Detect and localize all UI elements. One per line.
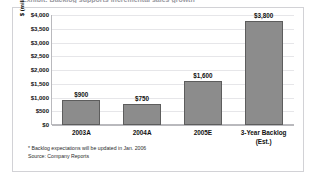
clipped-title-sliver: Exhibit: Backlog supports incremental sa… [22,0,232,3]
y-axis-tick-label: $1,000 [15,95,49,101]
bar-value-label: $3,800 [254,12,273,19]
y-axis-tick-label: $3,000 [15,40,49,46]
x-axis-label: 2004A [112,129,173,138]
footnotes: * Backlog expectations will be updated i… [28,145,278,160]
y-axis-tick-label: $1,500 [15,81,49,87]
y-axis-tick-labels: $0$500$1,000$1,500$2,000$2,500$3,000$3,5… [13,15,49,125]
x-axis-label: 3-Year Backlog (Est.) [233,129,294,146]
bar-slot: $900 [51,15,112,125]
gridline [52,125,294,126]
bar-slot: $3,800 [233,15,294,125]
y-axis-tick-label: $0 [15,122,49,128]
bar-value-label: $900 [74,91,88,98]
chart-page: Exhibit: Backlog supports incremental sa… [0,0,316,184]
bar[interactable] [184,81,222,125]
bar-value-label: $750 [135,95,149,102]
footnote-line: * Backlog expectations will be updated i… [28,145,278,153]
bar-slot: $1,600 [173,15,234,125]
bar[interactable] [245,21,283,126]
bar[interactable] [123,104,161,125]
y-axis-tick-label: $3,500 [15,26,49,32]
footnote-line: Source: Company Reports [28,153,278,161]
bar-value-label: $1,600 [193,72,212,79]
y-axis-tick-label: $500 [15,108,49,114]
x-axis-label: 2003A [51,129,112,138]
y-axis-tick-label: $4,000 [15,12,49,18]
bar-slot: $750 [112,15,173,125]
y-axis-tick-label: $2,000 [15,67,49,73]
bar[interactable] [62,100,100,125]
y-axis-tick-label: $2,500 [15,53,49,59]
bars-container: $900$750$1,600$3,800 [51,15,294,125]
x-axis-label: 2005E [173,129,234,138]
